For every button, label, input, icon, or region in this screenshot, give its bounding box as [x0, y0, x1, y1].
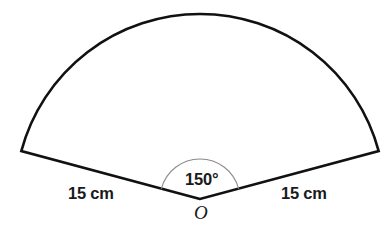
- sector-figure: 15 cm 15 cm 150° O: [0, 0, 390, 237]
- right-radius-label: 15 cm: [281, 185, 327, 202]
- left-radius-label: 15 cm: [68, 185, 114, 202]
- central-angle-label: 150°: [185, 171, 218, 188]
- vertex-label-o: O: [194, 203, 208, 222]
